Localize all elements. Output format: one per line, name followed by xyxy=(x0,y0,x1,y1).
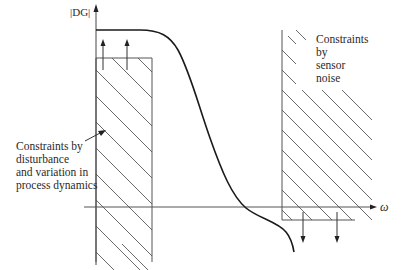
label-line: by xyxy=(316,46,368,59)
label-line: and variation in xyxy=(16,166,97,179)
low-frequency-constraint-label: Constraints by disturbance and variation… xyxy=(16,140,97,192)
label-line: Constraints by xyxy=(16,140,97,153)
label-line: disturbance xyxy=(16,153,97,166)
arrow-down-icon xyxy=(335,212,340,243)
x-axis xyxy=(84,205,377,210)
x-axis-arrow-icon xyxy=(370,205,377,210)
arrow-up-icon xyxy=(125,39,130,70)
arrow-down-icon xyxy=(301,212,306,243)
arrow-up-icon xyxy=(101,39,106,70)
label-line: Constraints xyxy=(316,33,368,46)
y-axis-label: |DG| xyxy=(70,6,90,19)
label-line: sensor xyxy=(316,59,368,72)
left-hatching xyxy=(96,58,152,270)
low-frequency-constraint-region xyxy=(96,39,152,270)
gain-curve xyxy=(96,30,294,252)
high-frequency-constraint-label: Constraints by sensor noise xyxy=(316,33,368,85)
label-line: process dynamics xyxy=(16,179,97,192)
x-axis-label: ω xyxy=(380,201,388,214)
label-line: noise xyxy=(316,72,368,85)
y-axis-arrow-icon xyxy=(94,4,99,12)
